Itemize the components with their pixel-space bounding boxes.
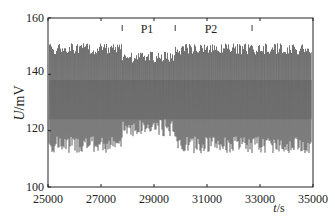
y-tick-label: 120: [26, 121, 44, 135]
region-label-p2: P2: [205, 22, 218, 36]
x-tick-label: 25000: [33, 192, 63, 206]
x-axis-label: t/s: [273, 201, 285, 215]
x-tick-label: 33000: [245, 192, 275, 206]
x-tick-label: 29000: [139, 192, 169, 206]
region-label-p1: P1: [141, 22, 154, 36]
x-tick-label: 31000: [192, 192, 222, 206]
y-axis-label: U/mV: [12, 85, 27, 120]
signal-trace: [49, 43, 312, 153]
y-tick-label: 140: [26, 64, 44, 78]
x-tick-label: 35000: [298, 192, 328, 206]
x-tick-label: 27000: [86, 192, 116, 206]
y-tick-label: 160: [26, 11, 44, 25]
voltage-chart: 160 140 120 100 25000 27000 29000 31000 …: [0, 0, 335, 221]
